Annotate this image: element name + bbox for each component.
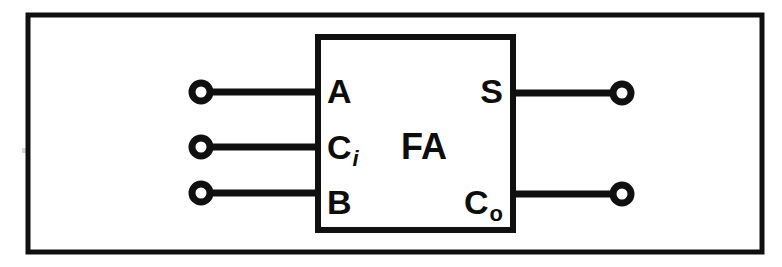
output-s-label: S <box>480 72 503 110</box>
output-s-terminal[interactable] <box>613 84 631 102</box>
input-b-label: B <box>327 183 352 221</box>
input-a-terminal[interactable] <box>192 83 210 101</box>
fa-block-label: FA <box>401 126 447 167</box>
input-b-terminal[interactable] <box>192 184 210 202</box>
input-wire-group <box>201 92 322 193</box>
input-a-label: A <box>327 72 352 110</box>
diagram-canvas: FA ACiBSCo <box>0 0 782 267</box>
input-ci-terminal[interactable] <box>192 138 210 156</box>
output-wire-group <box>509 93 622 194</box>
full-adder-diagram: FA ACiBSCo <box>0 0 782 267</box>
output-co-terminal[interactable] <box>613 185 631 203</box>
